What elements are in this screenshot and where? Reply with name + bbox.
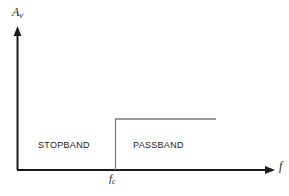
y-axis-label-subscript: v: [19, 10, 23, 20]
stopband-label: STOPBAND: [38, 141, 90, 150]
x-axis-arrowhead: [265, 166, 275, 174]
y-axis-label: Av: [12, 6, 23, 20]
x-axis: [17, 166, 275, 174]
response-plot-svg: [0, 0, 289, 196]
x-axis-label: f: [279, 160, 282, 172]
passband-label: PASSBAND: [133, 141, 184, 150]
cutoff-frequency-label: fc: [109, 173, 116, 186]
y-axis-arrowhead: [14, 26, 22, 36]
cutoff-label-subscript: c: [112, 177, 116, 186]
y-axis: [14, 26, 22, 170]
high-pass-filter-response-figure: Av f fc STOPBAND PASSBAND: [0, 0, 289, 196]
x-axis-label-base: f: [279, 159, 282, 173]
